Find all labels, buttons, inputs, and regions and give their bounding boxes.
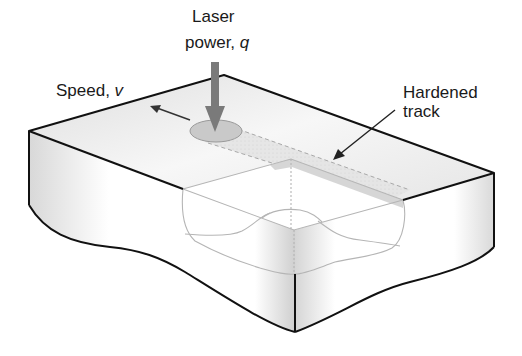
laser-label-line2: power, q: [185, 33, 250, 52]
laser-power-text: power,: [185, 33, 240, 52]
speed-text: Speed,: [56, 81, 115, 100]
laser-power-symbol: q: [240, 33, 250, 52]
hardened-label-line2: track: [403, 102, 440, 121]
speed-label: Speed, v: [56, 81, 125, 100]
speed-symbol: v: [115, 81, 125, 100]
laser-hardening-diagram: Laser power, q Speed, v Hardened track: [0, 0, 522, 356]
laser-label-line1: Laser: [192, 7, 235, 26]
hardened-label-line1: Hardened: [403, 83, 478, 102]
